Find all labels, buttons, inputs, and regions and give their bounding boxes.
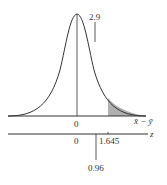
x-axis-name: x̄ − ȳ xyxy=(133,116,154,126)
normal-distribution-chart: 2.9 0 x̄ − ȳ z 0 1.645 0.96 xyxy=(0,0,167,185)
z-observed-label: 0.96 xyxy=(88,163,104,173)
x-axis-zero-label: 0 xyxy=(74,119,79,129)
z-critical-label: 1.645 xyxy=(99,136,120,146)
label-2-9: 2.9 xyxy=(89,12,101,22)
z-axis-zero-label: 0 xyxy=(74,136,79,146)
z-axis-name: z xyxy=(149,129,154,139)
